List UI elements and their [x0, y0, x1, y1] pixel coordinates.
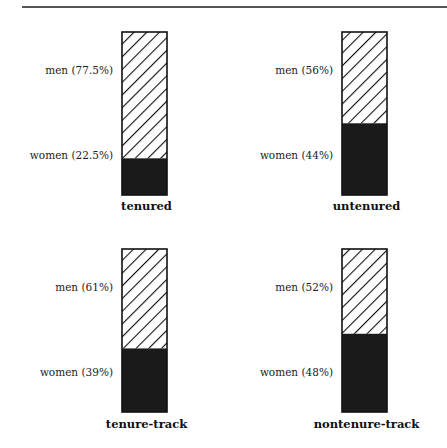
- label-women-tenured: women (22.5%): [30, 149, 113, 161]
- bar-men-untenured: [342, 32, 387, 123]
- bar-women-nontenure-track: [342, 334, 387, 412]
- bar-men-tenure-track: [122, 249, 167, 348]
- label-men-nontenure-track: men (52%): [275, 281, 333, 293]
- category-label-tenured: tenured: [121, 199, 172, 213]
- category-label-nontenure-track: nontenure-track: [314, 417, 421, 431]
- bar-men-tenured: [122, 32, 167, 158]
- label-women-untenured: women (44%): [260, 149, 333, 161]
- bar-women-untenured: [342, 123, 387, 195]
- bar-women-tenured: [122, 158, 167, 195]
- bar-men-nontenure-track: [342, 249, 387, 334]
- label-men-tenured: men (77.5%): [45, 64, 113, 76]
- label-women-tenure-track: women (39%): [40, 366, 113, 378]
- label-women-nontenure-track: women (48%): [260, 366, 333, 378]
- chart: men (77.5%)women (22.5%)tenuredmen (56%)…: [0, 0, 447, 448]
- label-men-untenured: men (56%): [275, 64, 333, 76]
- label-men-tenure-track: men (61%): [55, 281, 113, 293]
- category-label-tenure-track: tenure-track: [106, 417, 188, 431]
- category-label-untenured: untenured: [333, 199, 401, 213]
- bar-women-tenure-track: [122, 348, 167, 412]
